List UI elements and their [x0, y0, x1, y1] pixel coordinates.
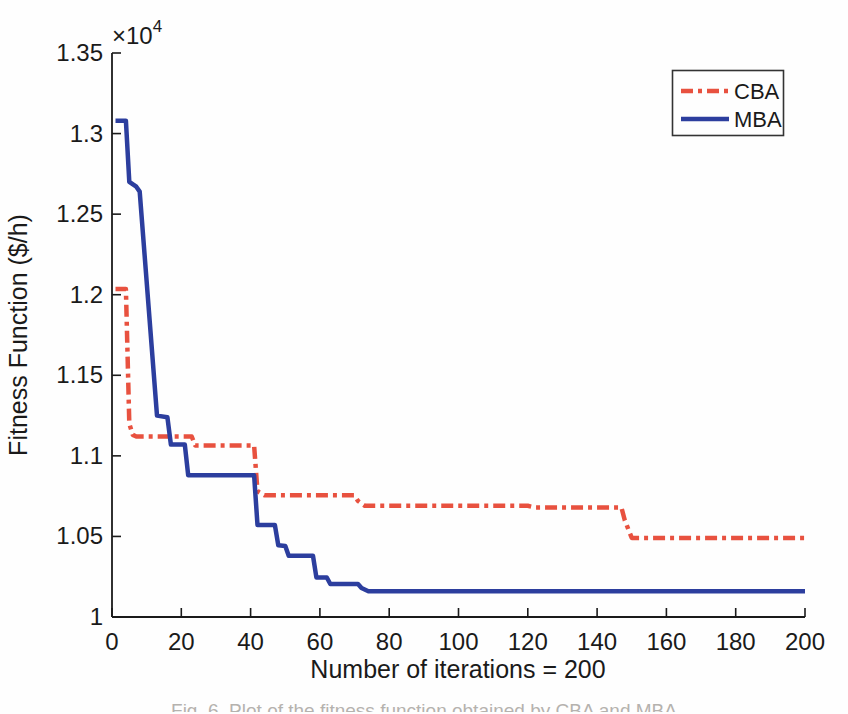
- x-tick-label: 140: [577, 628, 617, 655]
- y-tick-label: 1: [90, 603, 103, 630]
- y-axis-exponent: ×104: [112, 17, 162, 49]
- y-tick-label: 1.05: [56, 522, 103, 549]
- legend-cba-label: CBA: [734, 79, 780, 104]
- x-tick-label: 180: [716, 628, 756, 655]
- figure-root: 02040608010012014016018020011.051.11.151…: [0, 0, 848, 714]
- figure-caption-clipped: Fig. 6. Plot of the fitness function obt…: [0, 700, 848, 712]
- x-axis-label: Number of iterations = 200: [310, 655, 605, 683]
- y-tick-label: 1.35: [56, 39, 103, 66]
- y-axis-exponent-power: 4: [153, 17, 162, 36]
- fitness-chart: 02040608010012014016018020011.051.11.151…: [0, 0, 848, 714]
- x-tick-label: 0: [105, 628, 118, 655]
- series-group: [116, 121, 806, 592]
- y-tick-label: 1.25: [56, 200, 103, 227]
- x-tick-label: 100: [438, 628, 478, 655]
- y-tick-label: 1.2: [70, 281, 103, 308]
- series-line-cba: [116, 289, 806, 538]
- y-tick-label: 1.1: [70, 442, 103, 469]
- y-tick-label: 1.3: [70, 120, 103, 147]
- x-tick-label: 20: [168, 628, 195, 655]
- x-tick-label: 60: [307, 628, 334, 655]
- legend-mba-label: MBA: [734, 107, 782, 132]
- figure-caption-text: Fig. 6. Plot of the fitness function obt…: [171, 700, 677, 712]
- y-tick-label: 1.15: [56, 361, 103, 388]
- x-tick-label: 160: [646, 628, 686, 655]
- y-axis-label: Fitness Function ($/h): [4, 214, 32, 456]
- series-line-mba: [116, 121, 806, 592]
- legend: CBA MBA: [673, 71, 784, 136]
- x-tick-label: 80: [376, 628, 403, 655]
- y-axis-exponent-base: ×10: [112, 22, 153, 49]
- x-tick-label: 200: [785, 628, 825, 655]
- x-tick-label: 40: [237, 628, 264, 655]
- x-tick-label: 120: [508, 628, 548, 655]
